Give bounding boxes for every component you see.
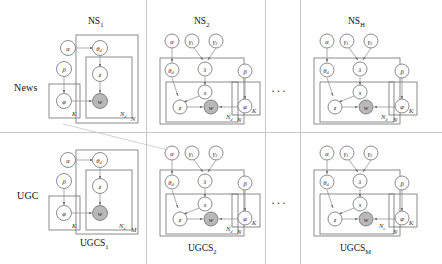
ugcs2-documents-plate [160,170,244,236]
panel-title-ns2-text: NS [194,16,206,26]
ugcs2-node-alpha [165,146,179,160]
ugcs1-topics-plate [49,196,80,230]
ugcsm-documents-plate [314,170,400,236]
ugcs1-node-beta [57,174,72,189]
nsh-node-gamma-1 [340,34,354,48]
ns2-documents-plate-label: N [236,116,242,123]
ugcsm-edge-s-z [339,208,354,214]
ugcsm-node-alpha-label: α [325,150,329,157]
panel-ns1: α θd β φ z w N Nd K [49,35,138,123]
nsh-edge-gamma1-lambda [349,48,358,60]
ugcsm-topics-plate [389,194,417,227]
ugcs1-documents-plate-label: M [130,226,137,233]
ugcs1-words-plate-label: Nd [118,222,126,231]
ns1-documents-plate [76,35,138,123]
ugcs2-edge-theta-z [172,190,178,208]
ns2-node-w [204,100,218,114]
nsh-node-lambda [353,62,367,76]
ugcsm-edge-gamma2-lambda [363,160,371,172]
ns2-node-z-label: z [178,104,182,111]
panel-title-nsh: NSH [348,16,365,28]
ns2-topics-plate-label: K [251,107,257,114]
ns1-node-phi [57,94,72,109]
ugcs2-words-plate [166,194,238,234]
ugcs2-node-beta [238,176,252,190]
nsh-documents-plate [314,58,400,124]
ns1-node-w [93,94,108,109]
ugcs2-node-s-label: s [204,201,207,208]
ugcs2-node-z-label: z [178,216,182,223]
panel-ns2: α γ1 γ2 θd λ s z w β φ N Nd K [160,34,260,124]
nsh-documents-plate-label: N [392,116,398,123]
ugcs2-topics-plate [232,194,260,227]
ns2-words-plate [166,82,238,122]
ugcs1-node-phi-label: φ [62,210,66,217]
ugcsm-node-gamma-2 [364,146,378,160]
panel-title-ugcs2-sub: 2 [213,248,216,255]
ugcsm-node-s [353,197,367,211]
ugcs1-topics-plate-label: K [71,222,77,229]
panel-title-ugcs2: UGCS2 [188,243,217,255]
nsh-words-plate [320,82,394,122]
ugcsm-edge-theta-z [327,190,333,208]
nsh-edge-s-z [339,96,354,102]
ugcs2-node-phi-label: φ [243,215,247,222]
panel-title-ns1-text: NS [88,16,100,26]
nsh-node-theta-d-label: θd [323,67,329,75]
ns1-node-z [93,67,108,82]
divider-vertical-2 [265,0,266,264]
ns2-node-phi [238,99,252,113]
ns2-edge-s-z [184,96,199,102]
ns2-node-alpha [165,34,179,48]
ns2-node-beta [238,64,252,78]
ns1-node-beta-label: β [61,66,66,73]
ns2-node-alpha-label: α [170,38,174,45]
ugcsm-node-gamma-2-label: γ2 [368,150,374,158]
ugcs2-node-z [173,212,187,226]
nsh-edge-theta-z [327,78,333,96]
ns2-topics-plate [232,82,260,115]
nsh-node-alpha [320,34,334,48]
ns2-node-gamma-1-label: γ1 [189,38,194,46]
panel-nsh: α γ1 γ2 θd λ s z w β φ N Nd K [314,34,417,124]
panel-ugcs2: α γ1 γ2 θd λ s z w β φ N Nd K [160,146,260,236]
ns1-node-beta [57,62,72,77]
ugcs2-node-theta-d [165,175,179,189]
ugcs2-node-gamma-2 [209,146,223,160]
panel-title-ugcsm-sub: M [365,248,371,255]
ns1-node-alpha-label: α [66,45,70,52]
ns1-words-plate-label: Nd [119,110,127,119]
ugcs2-node-w-label: w [209,216,214,223]
panel-title-nsh-sub: H [360,21,365,28]
nsh-node-s [353,85,367,99]
panel-title-ns2-sub: 2 [206,21,209,28]
ugcsm-node-gamma-1 [340,146,354,160]
ns2-node-lambda-label: λ [203,66,207,73]
ugcs2-node-gamma-2-label: γ2 [213,150,219,158]
ugcsm-node-z [328,212,342,226]
nsh-words-plate-label: Nd [380,113,388,122]
ns2-edge-gamma2-lambda [208,48,216,60]
panel-title-ugcs1-text: UGCS [80,238,105,248]
nsh-node-beta-label: β [399,68,404,75]
ns1-node-phi-label: φ [62,98,66,105]
ugcsm-node-theta-d [320,175,334,189]
ns2-node-s [198,85,212,99]
ugcs2-documents-plate-label: N [236,228,242,235]
ugcs2-edge-gamma2-lambda [208,160,216,172]
ns2-node-beta-label: β [242,68,247,75]
panel-title-ns1-sub: 1 [100,21,103,28]
ugcsm-node-beta [395,176,409,190]
nsh-node-theta-d [320,63,334,77]
ugcsm-node-lambda-label: λ [358,178,362,185]
nsh-node-gamma-2 [364,34,378,48]
nsh-node-w-label: w [364,104,369,111]
ugcsm-node-alpha [320,146,334,160]
ns2-node-lambda [198,62,212,76]
ugcsm-node-phi [395,211,409,225]
ugcs2-node-lambda [198,174,212,188]
ugcsm-words-plate-label: Nc [378,222,385,231]
ns2-words-plate-label: Nd [225,113,233,122]
panel-title-ugcsm: UGCSM [340,243,371,255]
ns1-node-alpha [61,41,76,56]
